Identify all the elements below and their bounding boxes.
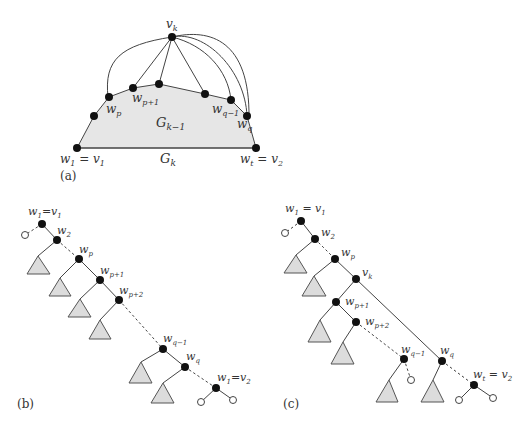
node-wp2 (115, 296, 123, 304)
node-wt-v2 (470, 381, 478, 389)
node-wp (105, 93, 113, 101)
node-w1-v2 (212, 384, 220, 392)
label-wp: wp (79, 243, 93, 258)
node-w1-v1 (38, 220, 46, 228)
label-w1-v1: w1=v1 (28, 205, 62, 220)
leaf-node (408, 377, 415, 384)
subtree-triangle (68, 299, 91, 317)
label-wp1: wp+1 (100, 264, 124, 279)
label-gk: Gk (160, 151, 176, 168)
label-wq: wq (186, 350, 200, 365)
node-vk (168, 33, 176, 41)
label-vk: vk (362, 266, 372, 281)
label-w1-v1: w1 = v1 (60, 152, 105, 168)
label-w2: w2 (321, 226, 335, 241)
diagram-canvas: vk wp wp+1 wq−1 wq Gk−1 Gk w1 = v1 wt = … (0, 0, 527, 429)
leaf-node (282, 230, 289, 237)
node-wq1 (400, 355, 408, 363)
subtree-triangle (308, 320, 331, 342)
label-w1-v2: w1=v2 (217, 371, 251, 386)
panel-b: w1=v1 w2 wp wp+1 wp+2 wq−1 wq w1=v2 (b) (17, 205, 251, 411)
label-wp2: wp+2 (365, 315, 390, 330)
node-wp2 (352, 318, 360, 326)
node-w1-v1 (297, 217, 305, 225)
label-wt-v2: wt = v2 (473, 368, 513, 383)
leaf-node (230, 397, 237, 404)
node-wq (181, 363, 189, 371)
node-w2 (53, 236, 61, 244)
subtree-triangle (89, 320, 111, 339)
node-w2 (311, 235, 319, 243)
label-wt-v2: wt = v2 (240, 152, 283, 168)
label-wq: wq (440, 344, 454, 359)
subtree-triangle (49, 278, 71, 296)
label-vk: vk (166, 17, 178, 33)
subtree-triangle (331, 342, 354, 364)
label-wq1: wq−1 (163, 332, 187, 347)
subtree-triangle (129, 362, 152, 383)
caption-a: (a) (60, 169, 77, 183)
label-wp: wp (341, 246, 355, 261)
label-w2: w2 (57, 224, 71, 239)
label-wp1: wp+1 (345, 295, 369, 310)
node-w1-v1 (73, 144, 81, 152)
leaf-node (22, 232, 29, 239)
node-wp1 (96, 276, 104, 284)
panel-c: w1 = v1 w2 wp vk wp+1 wp+2 wq−1 wq wt = … (282, 202, 513, 411)
subtree-triangle (151, 383, 174, 403)
label-wq: wq (237, 117, 252, 133)
node-a-right (201, 90, 209, 98)
subtree-triangle (284, 255, 307, 273)
node-wp (331, 255, 339, 263)
node-vk (352, 275, 360, 283)
label-w1-v1: w1 = v1 (285, 202, 326, 217)
leaf-node (198, 399, 205, 406)
caption-c: (c) (283, 397, 299, 411)
node-wp1 (332, 298, 340, 306)
subtree-triangle (27, 256, 50, 274)
node-wq (438, 357, 446, 365)
node-a-between (90, 112, 98, 120)
subtree-triangle (421, 380, 444, 402)
label-wp2: wp+2 (119, 284, 144, 299)
node-wq1 (227, 96, 235, 104)
subtree-triangle (376, 380, 398, 402)
node-wp (75, 255, 83, 263)
subtree-triangle (302, 276, 326, 296)
label-wq1: wq−1 (401, 343, 425, 358)
node-wt-v2 (252, 144, 260, 152)
node-a-top (155, 80, 163, 88)
node-wq1 (159, 345, 167, 353)
leaf-node (456, 397, 463, 404)
leaf-node (490, 395, 497, 402)
panel-a: vk wp wp+1 wq−1 wq Gk−1 Gk w1 = v1 wt = … (60, 17, 283, 183)
caption-b: (b) (17, 397, 34, 411)
